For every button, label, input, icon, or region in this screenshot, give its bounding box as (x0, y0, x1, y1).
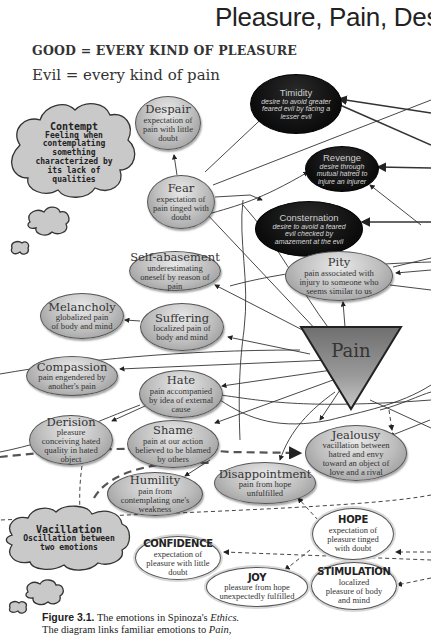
node-compassion: Compassion pain engendered by another's … (26, 356, 118, 396)
caption-line1-italic: Ethics. (210, 612, 239, 623)
node-melancholy: Melancholy globalized pain of body and m… (40, 293, 124, 339)
node-name: Self-abasement (130, 251, 220, 263)
node-desc: desire to avoid greater feared evil by f… (261, 98, 331, 120)
central-pain-label: Pain (301, 340, 401, 361)
node-desc: desire through mutual hatred to injure a… (311, 163, 373, 185)
node-name: Consternation (279, 213, 338, 223)
node-joy: JOY pleasure from hope unexpectedly fulf… (206, 567, 308, 607)
node-stimulation: STIMULATION localized pleasure of body a… (311, 562, 397, 610)
node-name: Despair (145, 103, 190, 115)
node-desc: pleasure conceiving hated quality in hat… (38, 428, 104, 464)
node-desc: expectation of pain with little doubt (142, 116, 194, 143)
node-name: Fear (168, 182, 195, 194)
node-hate: Hate pain accompanied by idea of externa… (139, 370, 223, 418)
cloud-name: Contempt (50, 121, 98, 132)
node-desc: expectation of pleasure tinged with doub… (320, 526, 386, 553)
node-shame: Shame pain at our action believed to be … (127, 420, 219, 468)
cloud-desc: Oscillation between two emotions (19, 535, 119, 553)
figure-caption: Figure 3.1. The emotions in Spinoza's Et… (42, 611, 239, 635)
contempt-cloud: Contempt Feeling when contemplating some… (15, 110, 133, 195)
node-disappointment: Disappointment pain from hope unfulfille… (214, 462, 316, 504)
node-desc: pain from hope unfulfilled (230, 480, 300, 498)
caption-line2: The diagram links familiar emotions to (42, 624, 209, 635)
node-desc: pain accompanied by idea of external cau… (146, 387, 216, 414)
node-name: Hate (167, 374, 195, 386)
node-humility: Humility pain from contemplating one's w… (107, 472, 203, 516)
node-jealousy: Jealousy vacillation between hatred and … (305, 425, 407, 481)
node-derision: Derision pleasure conceiving hated quali… (29, 415, 113, 465)
node-name: Timidity (280, 88, 312, 98)
node-desc: pleasure from hope unexpectedly fulfille… (214, 583, 300, 601)
node-self-abasement: Self-abasement underestimating oneself b… (129, 251, 221, 291)
diagram-canvas: Pleasure, Pain, Desire: GOOD = EVERY KIN… (0, 0, 431, 635)
node-desc: underestimating oneself by reason of pai… (135, 264, 215, 291)
node-desc: localized pleasure of body and mind (324, 578, 384, 605)
vacillation-cloud: Vacillation Oscillation between two emot… (8, 508, 130, 568)
caption-line1: The emotions in Spinoza's (95, 612, 211, 623)
node-despair: Despair expectation of pain with little … (135, 96, 201, 150)
page-title: Pleasure, Pain, Desire: (215, 2, 431, 33)
node-hope: HOPE expectation of pleasure tinged with… (312, 508, 394, 560)
node-name: Revenge (323, 153, 361, 163)
evil-definition: Evil = every kind of pain (32, 66, 220, 84)
node-timidity: Timidity desire to avoid greater feared … (250, 74, 342, 134)
caption-line2-italic: Pain, (209, 624, 231, 635)
node-desc: expectation of pain tinged with doubt (153, 195, 209, 222)
node-desc: vacillation between hatred and envy towa… (316, 441, 396, 477)
good-definition: GOOD = EVERY KIND OF PLEASURE (32, 43, 297, 58)
node-desc: localized pain of body and mind (151, 324, 213, 342)
node-desc: pain associated with injury to someone w… (295, 269, 383, 296)
node-desc: pain engendered by another's pain (36, 373, 108, 391)
cloud-desc: Feeling when contemplating something cha… (29, 132, 119, 185)
node-consternation: Consternation desire to avoid a feared e… (255, 201, 363, 257)
node-desc: pain at our action believed to be blamed… (135, 437, 211, 464)
node-name: Pity (328, 256, 351, 268)
node-desc: globalized pain of body and mind (51, 313, 113, 331)
node-revenge: Revenge desire through mutual hatred to … (305, 146, 379, 192)
node-pity: Pity pain associated with injury to some… (285, 251, 393, 301)
node-name: Shame (153, 424, 193, 436)
node-desc: desire to avoid a feared evil checked by… (268, 223, 350, 245)
node-desc: expectation of pleasure with little doub… (144, 550, 212, 577)
caption-label: Figure 3.1. (42, 611, 95, 623)
node-fear: Fear expectation of pain tinged with dou… (147, 175, 215, 229)
node-suffering: Suffering localized pain of body and min… (140, 303, 224, 351)
node-name: Humility (130, 474, 181, 486)
node-confidence: CONFIDENCE expectation of pleasure with … (135, 536, 221, 580)
node-desc: pain from contemplating one's weakness (119, 487, 191, 514)
